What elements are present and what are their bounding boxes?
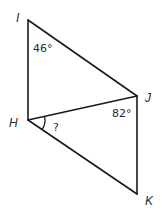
angle-label-h-unknown: ?	[53, 121, 59, 134]
vertex-label-k: K	[145, 194, 154, 208]
segment-hk	[28, 120, 137, 194]
geometry-diagram: I H J K 46° 82° ?	[0, 0, 163, 211]
vertex-label-h: H	[9, 116, 18, 130]
vertex-label-j: J	[144, 91, 152, 105]
angle-label-i: 46°	[33, 42, 53, 55]
vertex-label-i: I	[16, 11, 20, 25]
segment-ij	[28, 20, 137, 96]
angle-label-j: 82°	[112, 107, 132, 120]
angle-arc-h	[42, 116, 45, 129]
